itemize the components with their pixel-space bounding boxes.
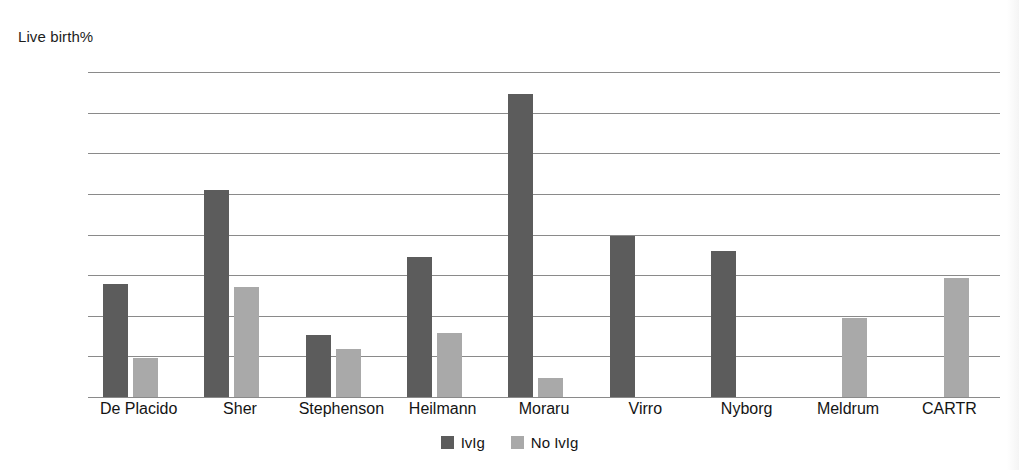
x-axis-label: Stephenson [299, 400, 384, 418]
plot-area: 01020304050607080 [88, 72, 1000, 397]
legend-item[interactable]: IvIg [441, 434, 485, 451]
bar-group [291, 72, 392, 397]
legend-label: No IvIg [531, 434, 579, 451]
x-axis-label: De Placido [100, 400, 177, 418]
bar-group [392, 72, 493, 397]
bar [508, 94, 533, 397]
x-axis-label: Virro [629, 400, 663, 418]
x-axis-label: Sher [223, 400, 257, 418]
bar-chart: Live birth% 01020304050607080 De Placido… [0, 0, 1019, 470]
chart-legend: IvIgNo IvIg [0, 434, 1019, 451]
bar-group [189, 72, 290, 397]
x-axis-label: CARTR [922, 400, 977, 418]
bar-group [797, 72, 898, 397]
bar [103, 284, 128, 397]
legend-swatch-icon [511, 436, 524, 449]
bar-group [493, 72, 594, 397]
bar-group [696, 72, 797, 397]
bar-group [899, 72, 1000, 397]
x-axis-category-labels: De PlacidoSherStephensonHeilmannMoraruVi… [88, 400, 1000, 426]
bar [437, 333, 462, 397]
bar [336, 349, 361, 397]
bars-layer [88, 72, 1000, 397]
gridline: 0 [88, 397, 1000, 398]
legend-label: IvIg [461, 434, 485, 451]
bar [711, 251, 736, 397]
bar [610, 236, 635, 397]
bar [204, 190, 229, 397]
bar-group [88, 72, 189, 397]
y-axis-title: Live birth% [18, 28, 93, 45]
x-axis-label: Meldrum [817, 400, 879, 418]
page-edge-shading [1007, 0, 1019, 470]
x-axis-label: Heilmann [409, 400, 477, 418]
x-axis-label: Moraru [519, 400, 570, 418]
bar [842, 318, 867, 397]
legend-item[interactable]: No IvIg [511, 434, 579, 451]
bar [133, 358, 158, 397]
bar [944, 278, 969, 397]
x-axis-label: Nyborg [721, 400, 773, 418]
bar [306, 335, 331, 397]
legend-swatch-icon [441, 436, 454, 449]
bar [407, 257, 432, 397]
bar [538, 378, 563, 398]
bar [234, 287, 259, 397]
bar-group [595, 72, 696, 397]
